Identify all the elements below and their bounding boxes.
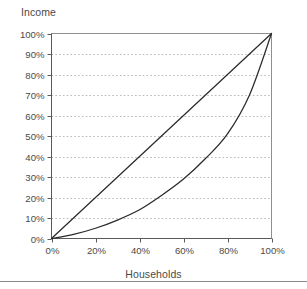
- x-tick-label: 80%: [219, 245, 239, 256]
- x-tick-label: 0%: [46, 245, 60, 256]
- x-tick-label: 40%: [131, 245, 151, 256]
- y-axis-ticks: 0%10%20%30%40%50%60%70%80%90%100%: [20, 29, 52, 245]
- y-tick-label: 0%: [31, 234, 45, 245]
- lorenz-curve-chart: Income 0%10%20%30%40%50%60%70%80%90%100%…: [0, 0, 307, 289]
- x-tick-label: 20%: [87, 245, 107, 256]
- bottom-rule: [0, 281, 307, 282]
- x-tick-label: 100%: [260, 245, 285, 256]
- y-tick-label: 80%: [25, 70, 45, 81]
- y-tick-label: 60%: [25, 111, 45, 122]
- y-tick-label: 30%: [25, 172, 45, 183]
- x-tick-label: 60%: [175, 245, 195, 256]
- x-axis-title: Households: [0, 268, 307, 280]
- y-tick-label: 20%: [25, 193, 45, 204]
- y-tick-label: 100%: [20, 29, 45, 40]
- plot-area: 0%10%20%30%40%50%60%70%80%90%100% 0%20%4…: [0, 0, 307, 289]
- y-tick-label: 10%: [25, 213, 45, 224]
- y-tick-label: 40%: [25, 152, 45, 163]
- y-tick-label: 70%: [25, 90, 45, 101]
- y-tick-label: 50%: [25, 131, 45, 142]
- x-axis-ticks: 0%20%40%60%80%100%: [46, 239, 286, 256]
- y-tick-label: 90%: [25, 49, 45, 60]
